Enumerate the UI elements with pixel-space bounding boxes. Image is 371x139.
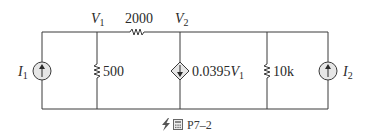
- source-subscript: 2: [348, 70, 353, 81]
- dependent-coefficient: 0.0395: [192, 64, 231, 79]
- current-source-i2: [319, 62, 337, 80]
- dependent-subscript: 1: [239, 70, 244, 81]
- figure-caption: P7–2: [161, 118, 212, 131]
- node-label-v2: V2: [175, 12, 189, 28]
- resistor-500: [94, 64, 100, 78]
- source-i2-label: I2: [343, 65, 353, 81]
- node-label-v1: V1: [91, 12, 105, 28]
- resistor-2000: [130, 29, 144, 35]
- resistor-500-label: 500: [103, 65, 124, 79]
- source-i1-label: I1: [18, 65, 28, 81]
- source-subscript: 1: [23, 70, 28, 81]
- resistor-10k: [264, 64, 270, 78]
- node-symbol: V: [91, 11, 100, 26]
- current-source-i1: [33, 62, 51, 80]
- dependent-source-label: 0.0395V1: [192, 65, 244, 81]
- resistor-10k-label: 10k: [273, 65, 294, 79]
- resistor-2000-label: 2000: [125, 12, 153, 26]
- node-symbol: V: [175, 11, 184, 26]
- dependent-current-source: [171, 62, 189, 80]
- circuit-diagram: V1 V2 2000 I1 500 0.0395V1 10k I2: [0, 0, 371, 139]
- lightning-icon: [161, 118, 171, 131]
- node-subscript: 2: [184, 17, 189, 28]
- dependent-symbol: V: [231, 64, 240, 79]
- node-subscript: 1: [100, 17, 105, 28]
- calculator-icon: [173, 119, 183, 130]
- caption-text: P7–2: [187, 119, 212, 131]
